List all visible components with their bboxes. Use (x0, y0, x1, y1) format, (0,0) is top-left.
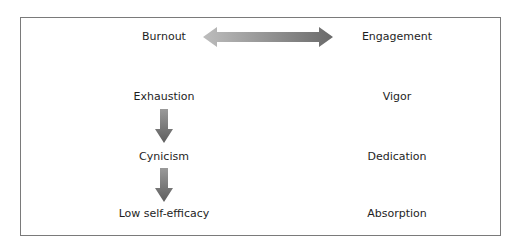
down-arrow-icon (155, 168, 173, 202)
dedication-label: Dedication (367, 150, 426, 163)
exhaustion-label: Exhaustion (134, 90, 195, 103)
double-arrow-icon (203, 26, 333, 48)
absorption-label: Absorption (367, 207, 427, 220)
down-arrow-icon (155, 109, 173, 143)
burnout-label: Burnout (142, 30, 186, 43)
vigor-label: Vigor (383, 90, 412, 103)
low-self-efficacy-label: Low self-efficacy (119, 207, 210, 220)
diagram-frame (20, 17, 501, 236)
engagement-label: Engagement (362, 30, 432, 43)
cynicism-label: Cynicism (139, 150, 189, 163)
